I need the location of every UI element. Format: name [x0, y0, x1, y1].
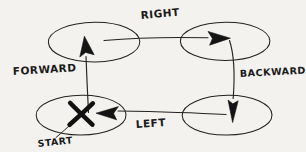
diagram-canvas: FORWARD RIGHT BACKWARD LEFT START [0, 0, 306, 152]
label-left: LEFT [135, 116, 166, 130]
sketch-diagram: FORWARD RIGHT BACKWARD LEFT START [0, 0, 306, 152]
